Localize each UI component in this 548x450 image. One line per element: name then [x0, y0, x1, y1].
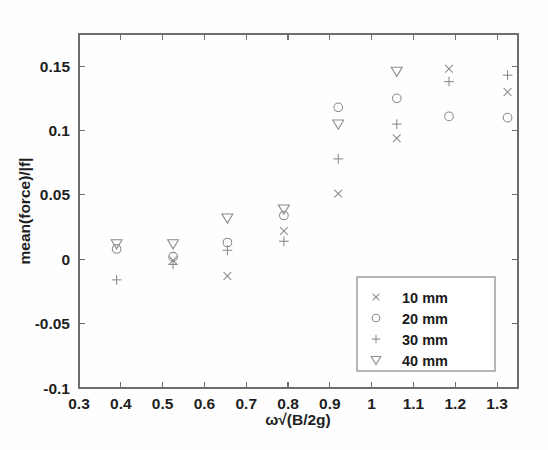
- data-point: [445, 65, 453, 73]
- series-20-mm: [112, 94, 512, 261]
- data-point: [280, 211, 289, 220]
- x-tick-label: 0.9: [319, 395, 341, 412]
- legend-label: 40 mm: [402, 353, 448, 369]
- data-point: [168, 260, 178, 270]
- x-tick-label: 0.3: [68, 395, 90, 412]
- data-point: [504, 88, 512, 96]
- x-tick-label: 0.5: [152, 395, 174, 412]
- y-tick-label: 0.05: [40, 186, 71, 203]
- scatter-plot: 0.30.40.50.60.70.80.911.11.21.3 -0.1-0.0…: [0, 0, 548, 450]
- x-tick-label: 1.1: [403, 395, 425, 412]
- y-tick-label: 0: [61, 251, 70, 268]
- data-point: [444, 77, 454, 87]
- data-point: [503, 70, 513, 80]
- data-point: [168, 240, 179, 249]
- x-axis-label: ω√(B/2g): [265, 411, 331, 428]
- legend-label: 30 mm: [402, 332, 448, 348]
- data-point: [391, 67, 402, 76]
- data-point: [392, 119, 402, 129]
- data-point: [393, 134, 401, 142]
- data-point: [333, 120, 344, 129]
- legend-label: 20 mm: [402, 311, 448, 327]
- x-tick-label: 1: [367, 395, 376, 412]
- data-point: [392, 94, 401, 103]
- legend-label: 10 mm: [402, 290, 448, 306]
- x-tick-label: 0.8: [277, 395, 299, 412]
- y-tick-label: -0.05: [35, 315, 71, 332]
- y-tick-label: 0.1: [48, 122, 70, 139]
- figure-container: 0.30.40.50.60.70.80.911.11.21.3 -0.1-0.0…: [0, 0, 548, 450]
- data-point: [279, 236, 289, 246]
- data-point: [445, 112, 454, 121]
- series-40-mm: [111, 67, 402, 249]
- x-tick-label: 0.6: [194, 395, 216, 412]
- y-tick-label: 0.15: [40, 58, 71, 75]
- x-tick-label: 1.3: [486, 395, 508, 412]
- data-point: [280, 227, 288, 235]
- data-point: [334, 190, 342, 198]
- data-point: [333, 154, 343, 164]
- series-10-mm: [169, 65, 511, 280]
- y-axis-label: mean(force)/|f|: [16, 158, 33, 265]
- data-point: [222, 214, 233, 223]
- data-point: [334, 103, 343, 112]
- y-axis-tick-labels: -0.1-0.0500.050.10.15: [35, 58, 71, 397]
- data-point: [224, 272, 232, 280]
- data-point: [112, 275, 122, 285]
- x-tick-label: 0.4: [110, 395, 132, 412]
- data-point: [503, 113, 512, 122]
- data-points-layer: [111, 65, 512, 285]
- y-tick-label: -0.1: [43, 380, 70, 397]
- x-tick-label: 1.2: [445, 395, 467, 412]
- legend: 10 mm20 mm30 mm40 mm: [357, 277, 495, 371]
- x-axis-tick-labels: 0.30.40.50.60.70.80.911.11.21.3: [68, 395, 508, 412]
- data-point: [223, 245, 233, 255]
- x-tick-label: 0.7: [235, 395, 257, 412]
